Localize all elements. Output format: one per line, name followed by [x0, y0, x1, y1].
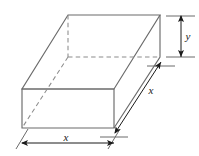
- hidden-edge-back-left-diagonal: [22, 57, 68, 128]
- dimension-arrow-depth: [115, 62, 161, 133]
- box-visible-edges: [22, 15, 160, 128]
- dimension-width-x: x: [16, 129, 120, 149]
- rectangular-box-diagram: x x y: [0, 0, 199, 156]
- figure-container: x x y: [0, 0, 199, 156]
- front-face-edges: [22, 89, 114, 128]
- dimension-height-y: y: [166, 16, 195, 57]
- dimension-label-depth: x: [148, 84, 154, 96]
- dimension-label-height: y: [185, 30, 191, 42]
- extension-line-width-left: [16, 129, 28, 149]
- box-hidden-edges: [22, 15, 160, 128]
- right-face-edges: [114, 15, 160, 128]
- extension-line-width-right: [108, 129, 120, 149]
- dimension-depth-x: x: [100, 62, 175, 137]
- top-face-edges: [22, 15, 160, 89]
- dimension-label-width: x: [63, 131, 69, 143]
